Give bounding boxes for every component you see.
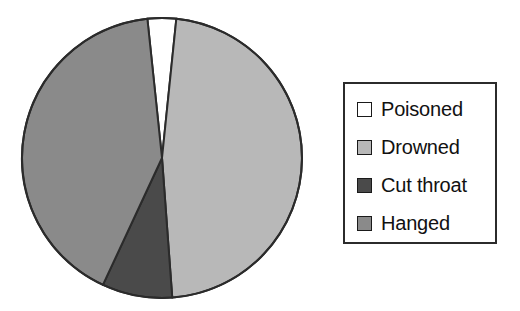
legend-label-drowned: Drowned: [381, 137, 460, 157]
pie-slice-group: [22, 18, 302, 298]
legend-label-hanged: Hanged: [381, 213, 450, 233]
legend-swatch-poisoned: [357, 102, 372, 117]
legend-item-drowned[interactable]: Drowned: [345, 128, 495, 166]
legend-swatch-hanged: [357, 216, 372, 231]
chart-legend: Poisoned Drowned Cut throat Hanged: [343, 82, 497, 244]
legend-item-poisoned[interactable]: Poisoned: [345, 90, 495, 128]
pie-chart-figure: Poisoned Drowned Cut throat Hanged: [0, 0, 520, 311]
legend-label-cut-throat: Cut throat: [381, 175, 467, 195]
legend-swatch-drowned: [357, 140, 372, 155]
legend-item-cut-throat[interactable]: Cut throat: [345, 166, 495, 204]
legend-label-poisoned: Poisoned: [381, 99, 463, 119]
legend-item-hanged[interactable]: Hanged: [345, 204, 495, 242]
legend-swatch-cut-throat: [357, 178, 372, 193]
pie-slice-drowned[interactable]: [162, 19, 302, 298]
